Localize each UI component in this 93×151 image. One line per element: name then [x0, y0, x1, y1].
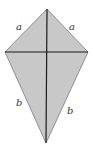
label-lower-right: b — [67, 105, 73, 116]
kite-diagram: a a b b — [0, 0, 93, 151]
label-upper-right: a — [69, 21, 75, 32]
label-lower-left: b — [16, 97, 22, 108]
label-upper-left: a — [16, 21, 22, 32]
